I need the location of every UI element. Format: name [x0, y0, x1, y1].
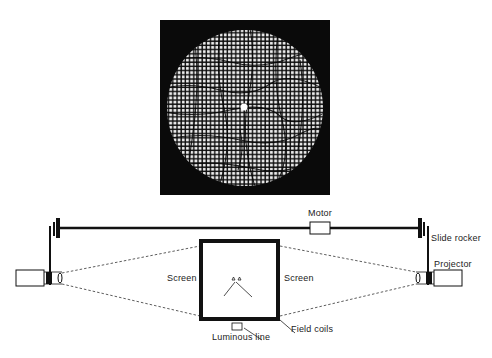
left-projector-body	[16, 270, 44, 286]
left-rocker-pin	[53, 222, 55, 236]
slide-rocker-label: Slide rocker	[431, 233, 481, 243]
luminous-line-marker	[232, 323, 242, 330]
motor-box	[310, 222, 330, 234]
motor-label: Motor	[308, 208, 332, 218]
right-rocker-pin	[423, 222, 425, 236]
field-coils-label: Field coils	[291, 324, 333, 334]
luminous-line-label: Luminous line	[212, 332, 270, 342]
screen-right-label: Screen	[284, 273, 314, 283]
screen-left-label: Screen	[167, 273, 197, 283]
apparatus-diagram	[0, 0, 492, 358]
right-projector-lens	[416, 273, 420, 283]
left-projector-slide	[46, 272, 52, 284]
right-projector-slide	[426, 272, 432, 284]
right-projector-body	[434, 270, 462, 286]
left-projector-lens	[58, 273, 62, 283]
projector-label: Projector	[434, 259, 472, 269]
left-rocker-plate	[56, 218, 60, 238]
right-rocker-plate	[418, 218, 422, 238]
